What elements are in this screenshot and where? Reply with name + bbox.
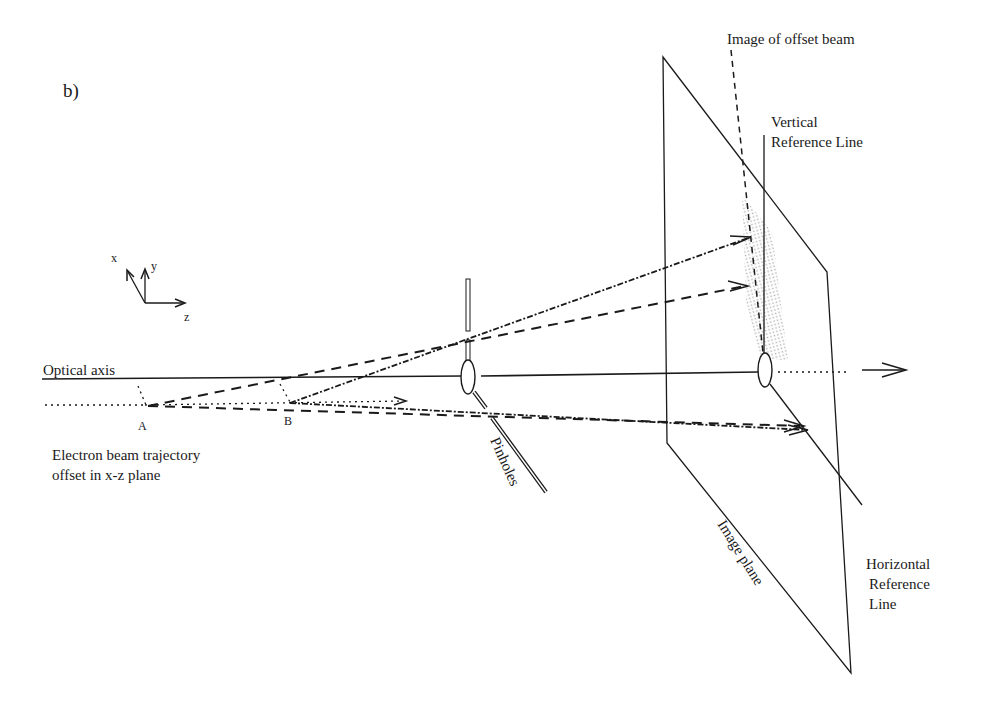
trajectory-caption-2: offset in x-z plane — [52, 467, 161, 483]
ray-a-lower — [148, 406, 800, 426]
y-axis-label: y — [151, 259, 157, 273]
horizontal-ref-label-1: Horizontal — [866, 556, 930, 572]
coordinate-axes-icon: x y z — [111, 251, 189, 324]
z-axis-label: z — [184, 310, 189, 324]
pinholes-label: Pinholes — [487, 435, 523, 489]
ray-a-upper — [148, 286, 745, 406]
x-axis-label: x — [111, 251, 117, 265]
panel-label: b) — [63, 80, 79, 102]
optical-axis-label: Optical axis — [43, 362, 115, 378]
horizontal-ref-label-3: Line — [869, 596, 897, 612]
point-b-label: B — [284, 414, 292, 428]
point-a-label: A — [138, 419, 147, 433]
horizontal-ref-label-2: Reference — [869, 576, 930, 592]
pinhole-imaging-diagram: b) x y z Optical axis Pinholes — [0, 0, 995, 711]
image-offset-beam-label: Image of offset beam — [727, 31, 855, 47]
vertical-ref-label-2: Reference Line — [771, 134, 863, 150]
ray-b-lower — [290, 403, 806, 430]
beam-arrow-icon — [394, 397, 406, 405]
vertical-ref-label-1: Vertical — [771, 114, 818, 130]
image-plane-label: Image plane — [714, 517, 767, 588]
ray-b-upper — [290, 238, 748, 403]
trajectory-caption-1: Electron beam trajectory — [52, 447, 201, 463]
